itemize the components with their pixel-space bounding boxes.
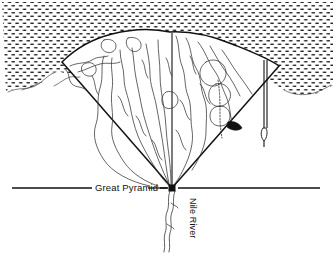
- nile-river-channel: [164, 191, 178, 252]
- diagram-canvas: Great Pyramid Nile River: [0, 0, 335, 264]
- fan-radius-right: [172, 66, 279, 188]
- nile-delta-diagram: Great Pyramid Nile River: [0, 0, 335, 264]
- axis-channel-bulge: [162, 91, 178, 108]
- nile-river-label: Nile River: [188, 198, 198, 239]
- delta-distributary-network: [66, 36, 252, 187]
- fan-radius-left: [62, 62, 172, 188]
- great-pyramid-marker[interactable]: [169, 185, 176, 192]
- great-pyramid-label: Great Pyramid: [95, 182, 158, 193]
- mediterranean-sea-stipple: [0, 0, 335, 120]
